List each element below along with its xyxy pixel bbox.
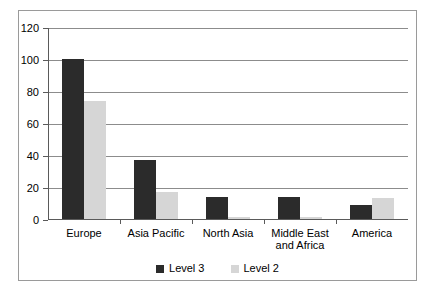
x-axis-category-label: Asia Pacific: [128, 227, 185, 239]
y-axis-tick-label: 60: [27, 119, 39, 130]
bar-level-3: [206, 197, 228, 219]
y-axis-tick-label: 120: [21, 23, 39, 34]
bar-level-2: [84, 101, 106, 219]
gridline: [48, 92, 408, 93]
y-axis-tick: [43, 220, 48, 221]
chart-figure: 020406080100120 EuropeAsia PacificNorth …: [18, 10, 417, 281]
gridline: [48, 60, 408, 61]
bar-level-3: [134, 160, 156, 219]
y-axis-tick-label: 0: [33, 215, 39, 226]
x-axis-category-label: America: [352, 227, 392, 239]
plot-area: 020406080100120 EuropeAsia PacificNorth …: [48, 28, 408, 220]
x-axis-category-label: North Asia: [203, 227, 254, 239]
gridline: [48, 28, 408, 29]
legend-item: Level 2: [231, 263, 279, 274]
y-axis-line: [48, 28, 49, 220]
x-axis-line: [48, 219, 408, 220]
legend-label: Level 2: [244, 263, 279, 274]
y-axis-tick-label: 80: [27, 87, 39, 98]
bar-level-2: [372, 198, 394, 219]
bar-level-3: [350, 205, 372, 219]
legend-label: Level 3: [169, 263, 204, 274]
legend-swatch-icon: [156, 265, 164, 273]
x-axis-category-label: Europe: [66, 227, 101, 239]
x-axis-tick: [120, 220, 121, 224]
bar-level-3: [62, 59, 84, 219]
legend-swatch-icon: [231, 265, 239, 273]
bar-level-2: [156, 192, 178, 219]
x-axis-tick: [192, 220, 193, 224]
legend-item: Level 3: [156, 263, 204, 274]
y-axis-tick-label: 100: [21, 55, 39, 66]
y-axis-tick-label: 20: [27, 183, 39, 194]
x-axis-category-label: Middle East and Africa: [271, 227, 328, 251]
y-axis-tick-label: 40: [27, 151, 39, 162]
x-axis-tick: [264, 220, 265, 224]
bar-level-3: [278, 197, 300, 219]
x-axis-tick: [336, 220, 337, 224]
chart-legend: Level 3Level 2: [19, 263, 416, 274]
